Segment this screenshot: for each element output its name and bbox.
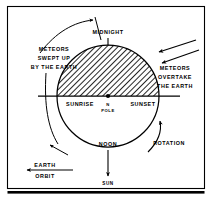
label-meteors-left-2: SWEPT UP [38, 55, 71, 61]
label-meteors-left-1: METEORS [39, 46, 70, 52]
label-sun: SUN [102, 181, 113, 186]
sweep-arrow-bottom-left [46, 73, 59, 144]
meteor-earth-diagram: MIDNIGHT SUNRISE SUNSET N POLE NOON SUN … [0, 0, 212, 205]
north-pole-dot [106, 94, 110, 98]
label-orbit-1: EARTH [34, 162, 55, 168]
meteor-arrow-upper [159, 40, 196, 52]
sweep-arrow-bottom-left-head [50, 145, 68, 155]
label-pole-line2: POLE [101, 108, 115, 113]
frame-bottom-rule [8, 191, 205, 194]
label-orbit-2: ORBIT [35, 173, 55, 179]
label-midnight: MIDNIGHT [92, 29, 123, 35]
label-sunset: SUNSET [130, 101, 155, 107]
label-pole-line1: N [106, 102, 110, 107]
meteor-arrow-lower [162, 50, 199, 63]
label-meteors-right-2: OVERTAKE [158, 74, 192, 80]
label-meteors-right-3: THE EARTH [157, 83, 193, 89]
label-rotation: ROTATION [153, 140, 185, 146]
diagram-canvas: MIDNIGHT SUNRISE SUNSET N POLE NOON SUN … [0, 0, 212, 205]
label-meteors-right-1: METEORS [160, 65, 191, 71]
label-sunrise: SUNRISE [66, 101, 94, 107]
label-meteors-left-3: BY THE EARTH [31, 64, 77, 70]
label-noon: NOON [99, 141, 117, 147]
